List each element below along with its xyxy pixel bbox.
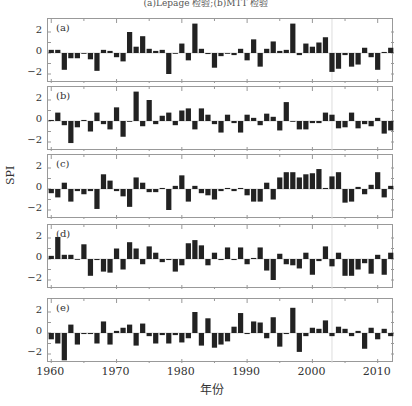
bar bbox=[166, 53, 171, 74]
bar bbox=[329, 115, 334, 121]
bar bbox=[186, 108, 191, 121]
bar bbox=[140, 183, 145, 189]
bar bbox=[62, 183, 67, 189]
bar bbox=[323, 320, 328, 333]
bar bbox=[75, 189, 80, 191]
bar bbox=[349, 333, 354, 336]
bar bbox=[127, 325, 132, 333]
x-tick-label: 1970 bbox=[96, 365, 136, 378]
panel-label: (e) bbox=[56, 302, 70, 313]
bar bbox=[192, 24, 197, 53]
bar bbox=[375, 172, 380, 189]
bar bbox=[147, 246, 152, 259]
bar bbox=[173, 259, 178, 272]
bar bbox=[101, 174, 106, 189]
bar bbox=[192, 312, 197, 333]
bar bbox=[134, 333, 139, 346]
bar bbox=[205, 259, 210, 265]
bar bbox=[336, 327, 341, 333]
bar bbox=[140, 259, 145, 264]
bar bbox=[62, 333, 67, 360]
bar bbox=[362, 333, 367, 349]
bar bbox=[94, 189, 99, 209]
bar bbox=[310, 121, 315, 123]
bar bbox=[88, 189, 93, 191]
bar bbox=[94, 53, 99, 71]
bar bbox=[153, 121, 158, 124]
bar bbox=[238, 121, 243, 133]
bar bbox=[271, 41, 276, 53]
bar bbox=[382, 329, 387, 333]
bar bbox=[355, 121, 360, 128]
bar bbox=[101, 50, 106, 53]
bar bbox=[192, 186, 197, 189]
figure-title: (a)Lepage 检验;(b)MTT 检验 bbox=[0, 0, 412, 9]
bar bbox=[245, 259, 250, 264]
bar bbox=[290, 24, 295, 53]
bar bbox=[68, 189, 73, 202]
bar bbox=[114, 107, 119, 121]
bar bbox=[258, 323, 263, 334]
bar bbox=[258, 189, 263, 202]
bar bbox=[186, 189, 191, 202]
bar bbox=[284, 172, 289, 189]
panel-e: (e) bbox=[47, 298, 393, 362]
bar bbox=[212, 253, 217, 259]
bar bbox=[218, 121, 223, 133]
bar bbox=[342, 121, 347, 127]
bar bbox=[388, 186, 393, 189]
y-tick-label: −2 bbox=[22, 66, 42, 77]
bar bbox=[147, 49, 152, 53]
bar bbox=[316, 329, 321, 333]
bar bbox=[81, 333, 86, 334]
bar bbox=[225, 188, 230, 189]
bar bbox=[277, 333, 282, 347]
bar bbox=[258, 53, 263, 67]
bar bbox=[179, 44, 184, 53]
bar bbox=[173, 186, 178, 189]
bar bbox=[238, 247, 243, 259]
bar bbox=[349, 53, 354, 67]
bar bbox=[323, 37, 328, 53]
bar bbox=[382, 259, 387, 275]
bar bbox=[68, 121, 73, 143]
bar bbox=[212, 121, 217, 124]
bar bbox=[140, 121, 145, 126]
bar bbox=[342, 329, 347, 333]
bar bbox=[186, 333, 191, 338]
bar bbox=[258, 121, 263, 125]
bar bbox=[94, 259, 99, 260]
bar bbox=[55, 333, 60, 344]
bar bbox=[388, 253, 393, 259]
y-tick-label: 0 bbox=[22, 113, 42, 124]
bar bbox=[284, 102, 289, 121]
bar bbox=[388, 121, 393, 130]
bar bbox=[81, 120, 86, 121]
bar bbox=[101, 121, 106, 124]
bar bbox=[297, 259, 302, 268]
bar bbox=[127, 242, 132, 259]
panel-label: (d) bbox=[56, 228, 70, 239]
bar bbox=[68, 53, 73, 58]
bar bbox=[81, 244, 86, 259]
bar bbox=[166, 333, 171, 344]
bar bbox=[192, 121, 197, 129]
bar bbox=[362, 48, 367, 53]
bar bbox=[231, 327, 236, 333]
bar bbox=[88, 259, 93, 276]
bar bbox=[147, 189, 152, 192]
bar bbox=[225, 247, 230, 259]
bar bbox=[88, 121, 93, 132]
bar bbox=[388, 333, 393, 336]
bar bbox=[107, 51, 112, 53]
y-tick-label: −2 bbox=[22, 346, 42, 357]
bar bbox=[186, 243, 191, 259]
bar bbox=[55, 189, 60, 197]
y-tick-label: 2 bbox=[22, 160, 42, 171]
bar bbox=[290, 121, 295, 122]
bar bbox=[49, 120, 54, 121]
bar bbox=[251, 118, 256, 121]
bar bbox=[94, 113, 99, 121]
bar bbox=[297, 177, 302, 189]
bar bbox=[75, 53, 80, 58]
